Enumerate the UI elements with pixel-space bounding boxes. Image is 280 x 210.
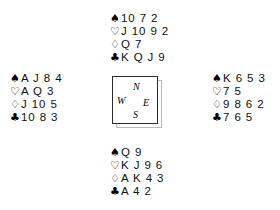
- west-hearts-cards: A Q 3: [21, 85, 54, 98]
- west-clubs-cards: 10 8 3: [21, 111, 58, 124]
- north-diamonds-cards: Q 7: [121, 38, 142, 51]
- south-diamonds-cards: A K 4 3: [121, 172, 164, 185]
- east-hearts-cards: 7 5: [223, 85, 242, 98]
- hand-west: ♠ A J 8 4 ♡ A Q 3 ♢ J 10 5 ♣ 10 8 3: [10, 72, 62, 124]
- heart-icon: ♡: [10, 85, 21, 98]
- compass-label-west: W: [117, 96, 125, 106]
- spade-icon: ♠: [10, 72, 21, 85]
- south-diamonds-line: ♢ A K 4 3: [110, 172, 164, 185]
- diamond-icon: ♢: [212, 98, 223, 111]
- west-diamonds-cards: J 10 5: [21, 98, 58, 111]
- east-diamonds-cards: 9 8 6 2: [223, 98, 264, 111]
- heart-icon: ♡: [110, 159, 121, 172]
- south-clubs-cards: A 4 2: [121, 185, 152, 198]
- west-hearts-line: ♡ A Q 3: [10, 85, 62, 98]
- club-icon: ♣: [110, 51, 121, 64]
- south-spades-line: ♠ Q 9: [110, 146, 164, 159]
- south-hearts-cards: K J 9 6: [121, 159, 163, 172]
- west-diamonds-line: ♢ J 10 5: [10, 98, 62, 111]
- north-spades-line: ♠ 10 7 2: [110, 12, 169, 25]
- club-icon: ♣: [110, 185, 121, 198]
- diamond-icon: ♢: [110, 172, 121, 185]
- heart-icon: ♡: [212, 85, 223, 98]
- spade-icon: ♠: [110, 12, 121, 25]
- west-spades-cards: A J 8 4: [21, 72, 62, 85]
- compass-rose-box: N W E S: [112, 76, 158, 124]
- south-hearts-line: ♡ K J 9 6: [110, 159, 164, 172]
- spade-icon: ♠: [212, 72, 223, 85]
- north-diamonds-line: ♢ Q 7: [110, 38, 169, 51]
- east-hearts-line: ♡ 7 5: [212, 85, 266, 98]
- east-spades-cards: K 6 5 3: [223, 72, 266, 85]
- north-hearts-line: ♡ J 10 9 2: [110, 25, 169, 38]
- south-clubs-line: ♣ A 4 2: [110, 185, 164, 198]
- west-clubs-line: ♣ 10 8 3: [10, 111, 62, 124]
- east-clubs-line: ♣ 7 6 5: [212, 111, 266, 124]
- hand-east: ♠ K 6 5 3 ♡ 7 5 ♢ 9 8 6 2 ♣ 7 6 5: [212, 72, 266, 124]
- west-spades-line: ♠ A J 8 4: [10, 72, 62, 85]
- diamond-icon: ♢: [10, 98, 21, 111]
- south-spades-cards: Q 9: [121, 146, 142, 159]
- hand-south: ♠ Q 9 ♡ K J 9 6 ♢ A K 4 3 ♣ A 4 2: [110, 146, 164, 198]
- heart-icon: ♡: [110, 25, 121, 38]
- compass-label-east: E: [143, 98, 149, 108]
- north-clubs-cards: K Q J 9: [121, 51, 166, 64]
- compass-label-north: N: [133, 82, 140, 92]
- north-clubs-line: ♣ K Q J 9: [110, 51, 169, 64]
- east-clubs-cards: 7 6 5: [223, 111, 253, 124]
- compass-label-south: S: [133, 110, 138, 120]
- east-spades-line: ♠ K 6 5 3: [212, 72, 266, 85]
- club-icon: ♣: [10, 111, 21, 124]
- north-hearts-cards: J 10 9 2: [121, 25, 169, 38]
- hand-north: ♠ 10 7 2 ♡ J 10 9 2 ♢ Q 7 ♣ K Q J 9: [110, 12, 169, 64]
- club-icon: ♣: [212, 111, 223, 124]
- compass-box: N W E S: [112, 76, 158, 124]
- bridge-deal-diagram: ♠ 10 7 2 ♡ J 10 9 2 ♢ Q 7 ♣ K Q J 9 ♠ A …: [0, 0, 280, 210]
- spade-icon: ♠: [110, 146, 121, 159]
- north-spades-cards: 10 7 2: [121, 12, 158, 25]
- diamond-icon: ♢: [110, 38, 121, 51]
- east-diamonds-line: ♢ 9 8 6 2: [212, 98, 266, 111]
